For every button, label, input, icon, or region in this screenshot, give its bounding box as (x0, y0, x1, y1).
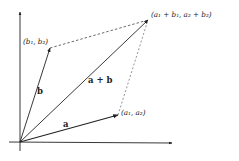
vector-label-sum: a + b (88, 75, 113, 85)
point-label-b: (b₁, b₂) (23, 37, 48, 46)
labels: (b₁, b₂) (a₁ + b₁, a₂ + b₂) (a₁, a₂) b a… (23, 10, 212, 129)
vector-addition-diagram: (b₁, b₂) (a₁ + b₁, a₂ + b₂) (a₁, a₂) b a… (0, 0, 239, 161)
vector-label-b: b (37, 86, 43, 96)
point-label-a: (a₁, a₂) (121, 108, 146, 117)
x-axis (9, 142, 172, 143)
vector-label-a: a (63, 119, 69, 129)
point-label-sum: (a₁ + b₁, a₂ + b₂) (151, 10, 212, 19)
